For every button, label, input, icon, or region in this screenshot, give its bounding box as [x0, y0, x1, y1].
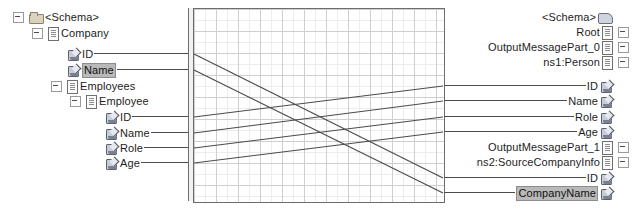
destination-node-label: ID: [587, 171, 598, 186]
attribute-icon: [105, 158, 118, 169]
source-link-stub: [151, 132, 188, 133]
mapping-link[interactable]: [194, 132, 443, 163]
mapping-link[interactable]: [194, 54, 443, 178]
expander-minus-icon[interactable]: [13, 12, 24, 23]
destination-tree-row[interactable]: ns1:Person: [543, 54, 632, 69]
attribute-icon: [105, 143, 118, 154]
destination-node-label: OutputMessagePart_0: [488, 40, 600, 55]
source-tree-row[interactable]: Employee: [0, 93, 149, 108]
destination-link-stub: [444, 100, 567, 101]
destination-node-label: OutputMessagePart_1: [488, 140, 600, 155]
source-node-label: Name: [82, 63, 116, 78]
document-icon: [602, 41, 613, 54]
expander-minus-icon[interactable]: [618, 27, 629, 38]
destination-tree-panel[interactable]: <Schema>RootOutputMessagePart_0ns1:Perso…: [446, 0, 636, 214]
source-link-stub: [132, 116, 188, 117]
source-node-label: <Schema>: [45, 10, 99, 25]
destination-node-label: Name: [568, 94, 598, 109]
expander-minus-icon[interactable]: [618, 142, 629, 153]
expander-minus-icon[interactable]: [51, 81, 62, 92]
attribute-icon: [600, 112, 613, 123]
expander-minus-icon[interactable]: [32, 28, 43, 39]
source-node-label: Age: [120, 156, 140, 171]
source-tree-row[interactable]: Company: [0, 25, 109, 40]
destination-node-label: ID: [587, 79, 598, 94]
document-icon: [602, 156, 613, 169]
source-tree-row[interactable]: Role: [0, 140, 143, 155]
mapping-link[interactable]: [194, 101, 443, 133]
destination-node-label: ns2:SourceCompanyInfo: [477, 155, 600, 170]
source-tree-row[interactable]: ID: [0, 46, 93, 61]
mapping-link[interactable]: [194, 117, 443, 148]
attribute-icon: [105, 112, 118, 123]
destination-link-stub: [444, 116, 574, 117]
document-icon: [67, 80, 78, 93]
source-link-stub: [94, 53, 188, 54]
source-node-label: Role: [120, 141, 143, 156]
expander-minus-icon[interactable]: [618, 42, 629, 53]
source-tree-row[interactable]: Name: [0, 125, 150, 140]
destination-tree-row[interactable]: ns2:SourceCompanyInfo: [477, 154, 632, 169]
source-tree-row[interactable]: ID: [0, 109, 131, 124]
source-tree-row[interactable]: Age: [0, 155, 140, 170]
mapping-links-layer[interactable]: [188, 8, 444, 201]
source-tree-row[interactable]: Name: [0, 62, 116, 77]
source-node-label: Employees: [80, 79, 135, 94]
expander-minus-icon[interactable]: [618, 157, 629, 168]
destination-link-stub: [444, 131, 577, 132]
source-node-label: ID: [120, 110, 131, 125]
destination-node-label: ns1:Person: [543, 55, 600, 70]
source-link-stub: [117, 69, 188, 70]
source-link-stub: [141, 162, 188, 163]
destination-node-label: <Schema>: [542, 10, 596, 25]
destination-tree-row[interactable]: CompanyName: [516, 185, 632, 200]
source-node-label: Company: [61, 26, 109, 41]
attribute-icon: [600, 127, 613, 138]
destination-node-label: Root: [576, 25, 600, 40]
attribute-icon: [105, 128, 118, 139]
mapping-link[interactable]: [194, 86, 443, 117]
source-node-label: ID: [82, 47, 93, 62]
destination-tree-row[interactable]: <Schema>: [542, 9, 632, 24]
destination-tree-row[interactable]: Role: [575, 109, 632, 124]
source-tree-panel[interactable]: <Schema>CompanyIDNameEmployeesEmployeeID…: [0, 0, 188, 214]
source-node-label: Name: [120, 126, 150, 141]
attribute-icon: [600, 96, 613, 107]
destination-tree-row[interactable]: ID: [587, 78, 632, 93]
attribute-icon: [67, 49, 80, 60]
destination-tree-row[interactable]: Age: [578, 124, 632, 139]
destination-node-label: CompanyName: [516, 186, 598, 201]
mapping-link[interactable]: [194, 70, 443, 193]
document-icon: [602, 26, 613, 39]
mapping-canvas[interactable]: [188, 8, 444, 201]
destination-tree-row[interactable]: OutputMessagePart_0: [488, 39, 632, 54]
attribute-icon: [67, 65, 80, 76]
attribute-icon: [600, 173, 613, 184]
destination-tree-row[interactable]: ID: [587, 170, 632, 185]
attribute-icon: [600, 81, 613, 92]
document-icon: [86, 95, 97, 108]
document-icon: [602, 56, 613, 69]
document-icon: [602, 141, 613, 154]
expander-minus-icon[interactable]: [70, 96, 81, 107]
destination-link-stub: [444, 85, 586, 86]
schema-icon: [598, 12, 613, 23]
destination-tree-row[interactable]: Name: [568, 93, 632, 108]
source-tree-row[interactable]: Employees: [0, 78, 135, 93]
source-tree-row[interactable]: <Schema>: [0, 9, 99, 24]
destination-tree-row[interactable]: Root: [576, 24, 632, 39]
folder-icon: [29, 12, 43, 23]
attribute-icon: [600, 188, 613, 199]
destination-node-label: Age: [578, 125, 598, 140]
destination-node-label: Role: [575, 110, 598, 125]
expander-minus-icon[interactable]: [618, 57, 629, 68]
schema-mapper: <Schema>CompanyIDNameEmployeesEmployeeID…: [0, 0, 636, 214]
destination-tree-row[interactable]: OutputMessagePart_1: [488, 139, 632, 154]
source-node-label: Employee: [99, 94, 149, 109]
document-icon: [48, 27, 59, 40]
destination-link-stub: [444, 192, 515, 193]
source-link-stub: [144, 147, 188, 148]
destination-link-stub: [444, 177, 586, 178]
